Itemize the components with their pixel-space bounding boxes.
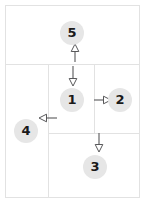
node-5[interactable]: 5	[60, 21, 84, 45]
region-flow-diagram: 5 1 2 4 3	[0, 0, 145, 203]
node-2[interactable]: 2	[108, 88, 132, 112]
node-4[interactable]: 4	[14, 119, 38, 143]
node-1[interactable]: 1	[60, 88, 84, 112]
node-3[interactable]: 3	[83, 155, 107, 179]
